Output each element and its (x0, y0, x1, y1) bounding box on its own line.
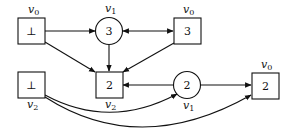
edges (45, 31, 251, 127)
node-n2-square: 3 v0 (174, 3, 201, 44)
edge-n3-n6-curved (45, 95, 251, 127)
node-value: ⊥ (26, 79, 36, 92)
edge-n0-n4 (45, 42, 95, 72)
node-var-label: v2 (27, 98, 38, 112)
node-value: 2 (262, 80, 269, 93)
node-var-label: v1 (105, 2, 116, 16)
node-value: 2 (106, 79, 113, 92)
node-n3-square: ⊥ v2 (18, 72, 45, 112)
node-var-label: v0 (183, 3, 194, 17)
node-var-label: v0 (261, 58, 272, 72)
edge-n2-n4 (123, 43, 174, 72)
node-n4-square: 2 v2 (96, 72, 123, 112)
game-graph-diagram: ⊥ v0 3 v1 3 v0 ⊥ v2 2 v2 2 v1 2 v0 (0, 0, 292, 138)
node-value: ⊥ (26, 25, 36, 38)
node-value: 3 (184, 25, 191, 38)
node-var-label: v2 (105, 98, 116, 112)
node-n6-square: 2 v0 (252, 58, 279, 99)
node-n0-square: ⊥ v0 (18, 3, 45, 44)
node-value: 3 (106, 25, 113, 38)
node-n5-circle: 2 v1 (174, 72, 201, 114)
node-var-label: v1 (183, 99, 194, 113)
node-var-label: v0 (28, 3, 39, 17)
node-value: 2 (184, 79, 191, 92)
node-n1-circle: 3 v1 (96, 2, 123, 45)
